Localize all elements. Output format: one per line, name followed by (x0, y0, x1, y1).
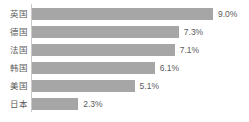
bar-value-label: 2.3% (83, 95, 102, 113)
bar-rows: 英国9.0%德国7.3%法国7.1%韩国6.1%美国5.1%日本2.3% (0, 5, 249, 113)
bar-track: 5.1% (32, 77, 249, 95)
category-label: 法国 (0, 41, 28, 59)
category-label: 韩国 (0, 59, 28, 77)
bar (32, 8, 213, 20)
bar (32, 98, 78, 110)
bar-track: 6.1% (32, 59, 249, 77)
bar (32, 26, 179, 38)
bar-track: 2.3% (32, 95, 249, 113)
bar-row: 日本2.3% (0, 95, 249, 113)
bar (32, 80, 135, 92)
category-label: 英国 (0, 5, 28, 23)
bar-value-label: 5.1% (140, 77, 159, 95)
bar-track: 9.0% (32, 5, 249, 23)
category-label: 美国 (0, 77, 28, 95)
bar (32, 62, 155, 74)
bar-value-label: 9.0% (218, 5, 237, 23)
bar-value-label: 7.3% (184, 23, 203, 41)
bar (32, 44, 175, 56)
category-label: 日本 (0, 95, 28, 113)
bar-value-label: 6.1% (160, 59, 179, 77)
bar-row: 美国5.1% (0, 77, 249, 95)
plot-area: 英国9.0%德国7.3%法国7.1%韩国6.1%美国5.1%日本2.3% (0, 0, 249, 114)
bar-track: 7.1% (32, 41, 249, 59)
bar-row: 韩国6.1% (0, 59, 249, 77)
bar-row: 法国7.1% (0, 41, 249, 59)
bar-track: 7.3% (32, 23, 249, 41)
bar-row: 英国9.0% (0, 5, 249, 23)
bar-row: 德国7.3% (0, 23, 249, 41)
bar-chart: 英国9.0%德国7.3%法国7.1%韩国6.1%美国5.1%日本2.3% (0, 0, 249, 122)
bar-value-label: 7.1% (180, 41, 199, 59)
category-label: 德国 (0, 23, 28, 41)
